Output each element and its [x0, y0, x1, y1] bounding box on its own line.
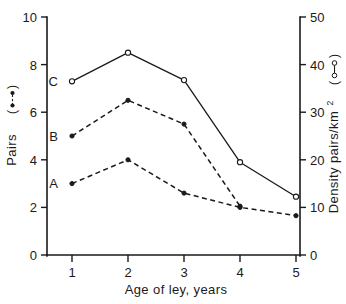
series-c-point-4	[237, 160, 242, 165]
series-b-line	[72, 100, 240, 206]
series-a-point-4	[238, 205, 242, 209]
left-tick-label-4: 4	[30, 153, 37, 168]
right-legend-open-paren: (	[327, 81, 341, 85]
series-a-point-5	[294, 214, 298, 218]
left-legend-open-paren: (	[5, 110, 19, 114]
series-a-point-3	[182, 191, 186, 195]
right-legend-circle-end	[332, 61, 337, 66]
left-tick-label-2: 2	[30, 200, 37, 215]
series-a-group: A	[49, 158, 298, 218]
x-axis-title: Age of ley, years	[125, 282, 228, 297]
right-tick-label-40: 40	[310, 58, 324, 73]
right-tick-label-10: 10	[310, 200, 324, 215]
series-c-point-3	[181, 78, 186, 83]
figure-root: 10 8 6 4 2 0 Pairs ( )	[0, 0, 346, 304]
x-tick-label-4: 4	[236, 265, 243, 280]
left-axis-group: 10 8 6 4 2 0	[23, 10, 47, 263]
left-legend-dot-end	[10, 91, 14, 95]
series-a-label: A	[49, 176, 58, 191]
left-axis-title-group: Pairs ( )	[4, 85, 19, 166]
series-c-group: C	[49, 50, 299, 199]
right-axis-group: 50 40 30 20 10 0	[300, 10, 324, 263]
series-b-label: B	[49, 129, 58, 144]
right-tick-label-50: 50	[310, 10, 324, 25]
left-tick-label-6: 6	[30, 105, 37, 120]
x-tick-label-1: 1	[68, 265, 75, 280]
right-legend-circle-start	[332, 73, 337, 78]
right-legend-close-paren: )	[327, 54, 341, 58]
left-legend-close-paren: )	[5, 85, 19, 89]
left-tick-label-8: 8	[30, 58, 37, 73]
series-b-point-1	[70, 134, 74, 138]
right-tick-label-30: 30	[310, 105, 324, 120]
left-tick-label-10: 10	[23, 10, 37, 25]
series-c-point-2	[125, 50, 130, 55]
series-c-point-5	[293, 194, 298, 199]
series-a-point-2	[126, 158, 130, 162]
left-axis-legend-glyph: ( )	[5, 85, 19, 114]
right-axis-title-superscript: 2	[325, 100, 335, 105]
x-tick-label-5: 5	[292, 265, 299, 280]
series-a-point-1	[70, 182, 74, 186]
series-b-point-3	[182, 122, 186, 126]
series-a-line	[72, 160, 296, 216]
right-axis-title: Density pairs/km	[326, 111, 341, 213]
left-tick-label-0: 0	[30, 248, 37, 263]
x-axis-group: 1 2 3 4 5 Age of ley, years	[47, 255, 300, 297]
x-tick-label-2: 2	[124, 265, 131, 280]
series-b-point-2	[126, 98, 130, 102]
series-c-point-1	[69, 79, 74, 84]
left-axis-title: Pairs	[4, 134, 19, 166]
right-tick-label-20: 20	[310, 153, 324, 168]
right-tick-label-0: 0	[310, 248, 317, 263]
x-tick-label-3: 3	[180, 265, 187, 280]
series-c-label: C	[49, 74, 58, 89]
right-axis-title-group: Density pairs/km 2 ( )	[325, 54, 341, 213]
right-axis-legend-glyph: ( )	[327, 54, 341, 85]
line-chart: 10 8 6 4 2 0 Pairs ( )	[0, 0, 346, 304]
series-b-group: B	[49, 98, 242, 208]
